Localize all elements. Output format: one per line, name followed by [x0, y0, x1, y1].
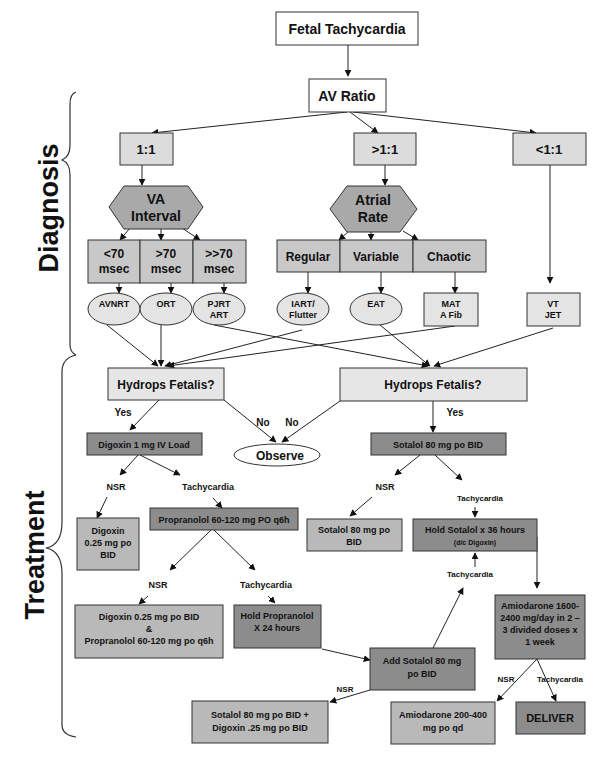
node-variable: Variable	[340, 240, 413, 272]
svg-text:No: No	[256, 417, 269, 428]
svg-text:&: &	[146, 624, 153, 634]
node-vt-jet: VT JET	[527, 293, 580, 326]
svg-text:AV Ratio: AV Ratio	[318, 88, 375, 104]
svg-text:EAT: EAT	[367, 299, 385, 309]
svg-text:Rate: Rate	[358, 209, 389, 225]
svg-text:msec: msec	[204, 262, 235, 276]
node-observe: Observe	[234, 444, 320, 466]
svg-text:Hydrops Fetalis?: Hydrops Fetalis?	[384, 378, 481, 392]
node-av-ratio: AV Ratio	[309, 79, 386, 112]
node-propranolol: Propranolol 60-120 mg PO q6h	[150, 508, 298, 530]
svg-text:Flutter: Flutter	[289, 310, 317, 320]
node-sotalol-po: Sotalol 80 mg po BID	[307, 519, 402, 551]
svg-text:NSR: NSR	[106, 482, 126, 492]
svg-text:JET: JET	[545, 310, 562, 320]
svg-text:Atrial: Atrial	[355, 192, 391, 208]
svg-text:Tachycardia: Tachycardia	[457, 494, 504, 503]
svg-text:Digoxin .25 mg po BID: Digoxin .25 mg po BID	[212, 723, 308, 733]
node-hydrops-left: Hydrops Fetalis?	[108, 368, 224, 400]
node-atrial-rate: Atrial Rate	[330, 186, 417, 232]
svg-text:Hold Propranolol: Hold Propranolol	[241, 611, 314, 621]
node-ratio-gt-1-1: >1:1	[354, 133, 416, 165]
node-ort: ORT	[140, 293, 192, 325]
node-ratio-lt-1-1: <1:1	[513, 133, 586, 165]
node-amiodarone-maintenance: Amiodarone 200-400 mg po qd	[391, 702, 495, 744]
node-regular: Regular	[277, 240, 340, 272]
svg-text:3 divided doses x: 3 divided doses x	[502, 625, 577, 635]
svg-text:A Fib: A Fib	[440, 310, 463, 320]
svg-text:NSR: NSR	[498, 675, 515, 684]
svg-text:Yes: Yes	[446, 407, 464, 418]
node-eat: EAT	[350, 293, 402, 325]
svg-text:po BID: po BID	[408, 669, 437, 679]
svg-text:Tachycardia: Tachycardia	[537, 675, 584, 684]
svg-text:1 week: 1 week	[525, 637, 556, 647]
node-mat-afib: MAT A Fib	[424, 293, 478, 326]
svg-text:Add Sotalol 80 mg: Add Sotalol 80 mg	[383, 656, 462, 666]
svg-text:No: No	[285, 417, 298, 428]
treatment-brace	[46, 355, 76, 737]
node-avnrt: AVNRT	[88, 293, 140, 325]
svg-text:Yes: Yes	[114, 407, 132, 418]
svg-text:Digoxin 0.25 mg po BID: Digoxin 0.25 mg po BID	[99, 612, 200, 622]
svg-text:PJRT: PJRT	[207, 299, 231, 309]
node-va-interval: VA Interval	[109, 186, 203, 229]
node-deliver: DELIVER	[516, 702, 585, 734]
svg-text:msec: msec	[99, 262, 130, 276]
node-chaotic: Chaotic	[413, 240, 486, 272]
svg-text:mg po qd: mg po qd	[423, 723, 464, 733]
node-ratio-1-1: 1:1	[120, 133, 173, 165]
svg-text:BID: BID	[346, 537, 362, 547]
svg-text:Sotalol 80 mg po BID +: Sotalol 80 mg po BID +	[211, 710, 309, 720]
node-hold-propranolol: Hold Propranolol X 24 hours	[234, 605, 321, 648]
svg-text:NSR: NSR	[375, 482, 395, 492]
svg-text:DELIVER: DELIVER	[526, 712, 574, 724]
svg-text:<70: <70	[104, 247, 125, 261]
node-digoxin-025: Digoxin 0.25 mg po BID	[77, 518, 139, 570]
node-fetal-tachycardia: Fetal Tachycardia	[276, 12, 418, 45]
svg-text:Chaotic: Chaotic	[427, 250, 471, 264]
flowchart-canvas: Diagnosis Treatment	[0, 0, 597, 757]
node-pjrt-art: PJRT ART	[193, 293, 245, 325]
svg-text:IART/: IART/	[291, 299, 315, 309]
node-digoxin-propranolol: Digoxin 0.25 mg po BID & Propranolol 60-…	[75, 605, 223, 658]
node-sotalol-digoxin: Sotalol 80 mg po BID + Digoxin .25 mg po…	[192, 701, 328, 743]
svg-text:2400 mg/day in 2 –: 2400 mg/day in 2 –	[500, 613, 580, 623]
node-va-lt70: <70 msec	[88, 240, 140, 283]
svg-text:Propranolol 60-120 mg PO q6h: Propranolol 60-120 mg PO q6h	[158, 515, 289, 525]
svg-text:Amiodarone 200-400: Amiodarone 200-400	[399, 710, 487, 720]
section-diagnosis: Diagnosis	[34, 143, 64, 272]
svg-text:Regular: Regular	[286, 250, 331, 264]
node-amiodarone-load: Amiodarone 1600- 2400 mg/day in 2 – 3 di…	[495, 595, 585, 659]
svg-text:VT: VT	[547, 299, 559, 309]
svg-text:Hold Sotalol x 36 hours: Hold Sotalol x 36 hours	[425, 525, 525, 535]
svg-text:1:1: 1:1	[137, 142, 156, 157]
svg-text:Digoxin 1 mg IV Load: Digoxin 1 mg IV Load	[98, 440, 190, 450]
svg-text:Propranolol 60-120 mg po q6h: Propranolol 60-120 mg po q6h	[84, 636, 213, 646]
node-digoxin-load: Digoxin 1 mg IV Load	[87, 433, 202, 455]
svg-text:VA: VA	[147, 191, 165, 207]
svg-text:(d/c Digoxin): (d/c Digoxin)	[454, 539, 496, 547]
svg-text:ORT: ORT	[157, 299, 177, 309]
diagnosis-brace	[62, 92, 76, 355]
svg-text:Digoxin: Digoxin	[92, 526, 125, 536]
svg-text:BID: BID	[100, 550, 116, 560]
svg-text:>70: >70	[156, 247, 177, 261]
svg-text:Interval: Interval	[131, 208, 181, 224]
svg-text:Hydrops Fetalis?: Hydrops Fetalis?	[117, 378, 214, 392]
svg-text:Observe: Observe	[256, 449, 304, 463]
svg-text:0.25 mg po: 0.25 mg po	[84, 538, 132, 548]
node-hydrops-right: Hydrops Fetalis?	[340, 368, 527, 401]
svg-text:Variable: Variable	[353, 250, 399, 264]
svg-text:>1:1: >1:1	[372, 142, 398, 157]
svg-text:AVNRT: AVNRT	[99, 299, 130, 309]
svg-text:MAT: MAT	[442, 299, 461, 309]
svg-text:Amiodarone 1600-: Amiodarone 1600-	[501, 601, 579, 611]
svg-text:Sotalol 80 mg po: Sotalol 80 mg po	[318, 525, 391, 535]
svg-text:msec: msec	[151, 262, 182, 276]
svg-text:NSR: NSR	[337, 685, 354, 694]
node-va-gt70: >70 msec	[140, 240, 193, 283]
node-add-sotalol: Add Sotalol 80 mg po BID	[370, 648, 475, 690]
svg-text:Sotalol 80 mg po BID: Sotalol 80 mg po BID	[393, 440, 484, 450]
svg-text:Tachycardia: Tachycardia	[240, 580, 293, 590]
